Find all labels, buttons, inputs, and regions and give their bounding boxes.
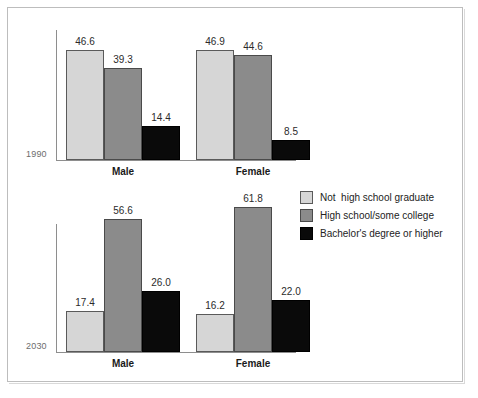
bar-value-label: 17.4 — [60, 297, 110, 308]
panel-year-label: 2030 — [26, 341, 47, 351]
bar-value-label: 61.8 — [228, 193, 278, 204]
bar — [66, 311, 104, 352]
bar-value-label: 56.6 — [98, 205, 148, 216]
bar — [272, 300, 310, 352]
legend-swatch-high-school-some-college — [300, 209, 313, 222]
bar-value-label: 22.0 — [266, 286, 316, 297]
chart-legend: Not high school graduate High school/som… — [300, 188, 443, 242]
legend-swatch-not-high-school-graduate — [300, 191, 313, 204]
y-axis-line — [56, 224, 57, 352]
x-axis-baseline — [56, 352, 296, 353]
bar — [234, 207, 272, 352]
group-label: Female — [196, 358, 310, 369]
legend-item-not-high-school-graduate: Not high school graduate — [300, 188, 443, 206]
legend-item-bachelors-degree-or-higher: Bachelor's degree or higher — [300, 224, 443, 242]
bar — [196, 314, 234, 352]
bar — [142, 291, 180, 352]
legend-label-high-school-some-college: High school/some college — [320, 210, 434, 221]
legend-label-bachelors-degree-or-higher: Bachelor's degree or higher — [320, 228, 443, 239]
group-label: Male — [66, 358, 180, 369]
legend-swatch-bachelors-degree-or-higher — [300, 227, 313, 240]
bar-value-label: 26.0 — [136, 277, 186, 288]
legend-item-high-school-some-college: High school/some college — [300, 206, 443, 224]
legend-label-not-high-school-graduate: Not high school graduate — [320, 192, 434, 203]
chart-page: 199046.639.314.4Male46.944.68.5Female 20… — [0, 0, 478, 398]
bar-value-label: 16.2 — [190, 300, 240, 311]
